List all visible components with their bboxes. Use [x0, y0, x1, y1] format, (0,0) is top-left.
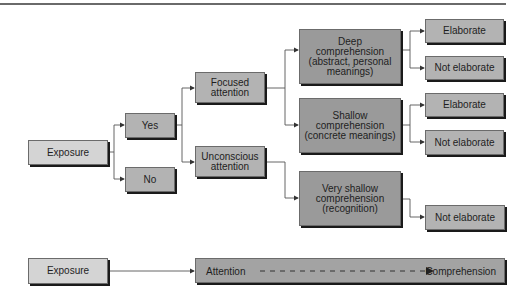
top-rule [0, 3, 506, 5]
deep-comprehension-label: Deep comprehension (abstract, personal m… [309, 37, 392, 77]
very-shallow-comprehension-node: Very shallow comprehension (recognition) [299, 171, 401, 226]
exposure-label: Exposure [47, 148, 89, 158]
deep-elaborate-label: Elaborate [443, 26, 486, 36]
deep-elaborate-node: Elaborate [425, 19, 504, 43]
summary-exposure-node: Exposure [28, 258, 108, 284]
summary-exposure-label: Exposure [47, 266, 89, 276]
very-shallow-comprehension-label: Very shallow comprehension (recognition) [316, 184, 384, 214]
shallow-comprehension-node: Shallow comprehension (concrete meanings… [299, 98, 401, 153]
yes-label: Yes [142, 121, 158, 131]
shallow-comprehension-label: Shallow comprehension (concrete meanings… [304, 111, 395, 141]
no-label: No [144, 175, 157, 185]
yes-node: Yes [125, 113, 175, 138]
comprehension-label: Comprehension [425, 266, 496, 277]
dashed-arrow-icon [258, 265, 436, 277]
shallow-not-elaborate-label: Not elaborate [434, 138, 494, 148]
exposure-node: Exposure [28, 140, 108, 165]
no-node: No [125, 167, 175, 192]
very-shallow-not-elaborate-node: Not elaborate [425, 205, 505, 230]
shallow-not-elaborate-node: Not elaborate [425, 130, 504, 155]
very-shallow-not-elaborate-label: Not elaborate [435, 213, 495, 223]
attention-label: Attention [206, 266, 245, 277]
attention-comprehension-bar: Attention Comprehension [195, 258, 505, 283]
shallow-elaborate-node: Elaborate [425, 93, 504, 117]
unconscious-attention-label: Unconscious attention [201, 152, 258, 172]
deep-not-elaborate-label: Not elaborate [434, 63, 494, 73]
shallow-elaborate-label: Elaborate [443, 100, 486, 110]
unconscious-attention-node: Unconscious attention [195, 146, 265, 177]
deep-not-elaborate-node: Not elaborate [425, 56, 504, 80]
deep-comprehension-node: Deep comprehension (abstract, personal m… [299, 29, 401, 84]
focused-attention-label: Focused attention [211, 78, 249, 98]
focused-attention-node: Focused attention [195, 72, 265, 103]
